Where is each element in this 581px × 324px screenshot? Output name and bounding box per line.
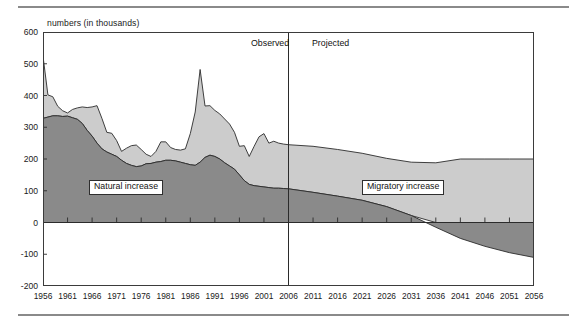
x-tick-label: 1956 (34, 291, 53, 301)
y-tick-label: 0 (33, 218, 38, 228)
x-tick-label: 2021 (353, 291, 372, 301)
x-tick-label: 2016 (328, 291, 347, 301)
x-tick-label: 2011 (304, 291, 322, 301)
y-tick-label: 600 (24, 27, 38, 37)
natural-increase-legend-label: Natural increase (89, 180, 163, 195)
observed-period-label: Observed (251, 38, 289, 48)
y-tick-label: 200 (24, 154, 38, 164)
y-tick-label: -200 (21, 281, 38, 291)
y-tick-label: 100 (24, 186, 38, 196)
x-tick-label: 2031 (402, 291, 421, 301)
x-tick-label: 1981 (156, 291, 175, 301)
x-tick-label: 1991 (205, 291, 224, 301)
plot-area (43, 32, 534, 286)
chart-svg (43, 32, 534, 286)
y-axis-title: numbers (in thousands) (47, 18, 139, 28)
x-tick-label: 2036 (426, 291, 445, 301)
x-tick-label: 1996 (230, 291, 249, 301)
projected-period-label: Projected (312, 38, 349, 48)
x-tick-label: 2051 (500, 291, 519, 301)
top-divider-rule (18, 6, 569, 8)
y-tick-label: 400 (24, 91, 38, 101)
x-tick-label: 1971 (107, 291, 126, 301)
y-tick-label: 500 (24, 59, 38, 69)
x-tick-label: 2056 (525, 291, 544, 301)
y-axis-tick-labels: 6005004003002001000-100-200 (0, 32, 38, 286)
y-tick-label: -100 (21, 249, 38, 259)
x-tick-label: 2026 (377, 291, 396, 301)
migratory-increase-legend-label: Migratory increase (362, 180, 444, 195)
x-tick-label: 2001 (255, 291, 274, 301)
x-tick-label: 2041 (451, 291, 470, 301)
x-axis-tick-labels: 1956196119661971197619811986199119962001… (43, 291, 534, 305)
bottom-divider-rule (18, 314, 569, 316)
x-tick-label: 2046 (476, 291, 495, 301)
population-growth-chart-figure: numbers (in thousands) 60050040030020010… (0, 0, 581, 324)
x-tick-label: 2006 (279, 291, 298, 301)
x-tick-label: 1966 (83, 291, 102, 301)
x-tick-label: 1961 (58, 291, 77, 301)
x-tick-label: 1986 (181, 291, 200, 301)
x-tick-label: 1976 (132, 291, 151, 301)
y-tick-label: 300 (24, 122, 38, 132)
